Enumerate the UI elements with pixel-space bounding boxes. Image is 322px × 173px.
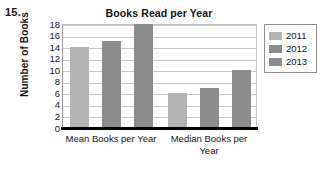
y-axis-tick-label: 12 — [38, 54, 60, 63]
legend-label: 2013 — [286, 57, 307, 66]
y-axis-tick-label: 0 — [38, 124, 60, 133]
x-axis-category-label: Median Books per Year — [160, 133, 258, 156]
legend-swatch-icon — [269, 32, 282, 40]
y-axis-tick-labels: 024681012141618 — [38, 24, 60, 128]
bar — [134, 24, 153, 128]
legend-item: 2012 — [269, 42, 313, 55]
y-axis-tick-label: 16 — [38, 31, 60, 40]
y-axis-tick-label: 18 — [38, 20, 60, 29]
legend-label: 2011 — [286, 31, 306, 40]
bar — [102, 41, 121, 128]
legend-label: 2012 — [286, 44, 307, 53]
bar — [70, 47, 89, 128]
y-axis-tick-label: 4 — [38, 100, 60, 109]
y-axis-tick-label: 2 — [38, 112, 60, 121]
legend-item: 2013 — [269, 55, 313, 68]
bar — [168, 93, 187, 128]
plot-area — [62, 24, 257, 128]
bar — [200, 88, 219, 128]
legend-swatch-icon — [269, 45, 282, 53]
legend-swatch-icon — [269, 58, 282, 66]
y-axis-tick-label: 10 — [38, 66, 60, 75]
y-axis-title: Number of Books — [19, 0, 30, 115]
bar — [232, 70, 251, 128]
y-axis-tick-label: 6 — [38, 89, 60, 98]
x-axis-category-label: Mean Books per Year — [62, 133, 160, 145]
legend-item: 2011 — [269, 29, 313, 42]
y-axis-tick-label: 8 — [38, 77, 60, 86]
chart-legend: 201120122013 — [264, 24, 317, 73]
y-axis-tick-label: 14 — [38, 43, 60, 52]
bar-series-container — [63, 25, 256, 128]
chart-title: Books Read per Year — [60, 7, 258, 19]
x-axis-baseline — [61, 127, 258, 130]
chart-figure: 15. Books Read per Year Number of Books … — [0, 0, 322, 173]
